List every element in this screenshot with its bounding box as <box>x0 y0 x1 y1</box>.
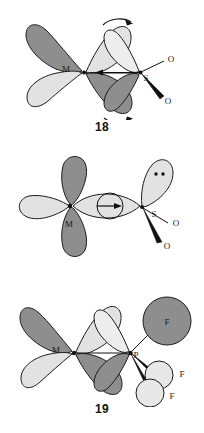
atom-label-S: S <box>151 209 156 219</box>
lone-pair-dot-right <box>161 172 164 175</box>
figure-18-caption: 18 <box>0 120 204 134</box>
sulfur-lone-pair-lobe <box>141 160 173 207</box>
phosphorus-nucleus <box>128 351 132 355</box>
atom-label-O-lower: O <box>164 241 171 251</box>
metal-lobe-bottom <box>62 207 87 256</box>
metal-lobe-left <box>19 195 68 218</box>
atom-label-M: M <box>62 64 70 74</box>
metal-nucleus <box>82 71 86 75</box>
sulfur-oxygen-bond-thin <box>141 61 164 72</box>
atom-label-O-upper: O <box>168 54 175 64</box>
atom-label-O-lower: O <box>165 96 172 106</box>
figure-19: M S O O 19 <box>0 142 204 287</box>
figure-20-drawing: M P F F F <box>0 285 204 407</box>
figure-18: M S O O 18 <box>0 0 204 145</box>
metal-lobe-top <box>62 157 87 205</box>
atom-label-F-middle: F <box>179 369 184 379</box>
metal-lobe-lower-left <box>21 353 72 388</box>
metal-lobe-lower-left <box>27 71 82 107</box>
atom-label-F-upper: F <box>164 317 169 327</box>
atom-label-M: M <box>65 219 73 229</box>
atom-label-F-lower: F <box>169 391 174 401</box>
metal-lobe-upper-left <box>20 308 72 353</box>
sulfur-nucleus <box>139 71 143 75</box>
lone-pair-dot-left <box>154 172 157 175</box>
figure-20: M P F F F 20 <box>0 285 204 433</box>
sulfur-nucleus <box>140 205 144 209</box>
atom-label-M: M <box>52 345 60 355</box>
metal-nucleus <box>68 204 72 208</box>
atom-label-P: P <box>133 350 138 360</box>
figure-19-drawing: M S O O <box>0 142 204 262</box>
metal-lobe-upper-left <box>26 25 82 73</box>
atom-label-S: S <box>143 73 148 83</box>
metal-nucleus <box>72 351 76 355</box>
page-root: M S O O 18 <box>0 0 204 433</box>
fluorine-sphere-lower <box>136 379 164 407</box>
atom-label-O-upper: O <box>173 218 180 228</box>
figure-18-drawing: M S O O <box>0 0 204 120</box>
